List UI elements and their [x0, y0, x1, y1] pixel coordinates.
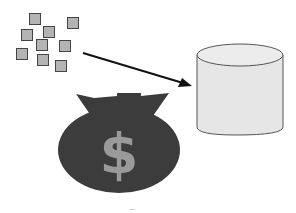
money-bag-icon: $	[58, 93, 180, 193]
dollar-sign-icon: $	[100, 121, 139, 186]
diagram-canvas: $	[0, 0, 296, 213]
caption: —	[130, 206, 135, 212]
database-icon	[197, 44, 283, 135]
arrow-icon	[83, 53, 192, 87]
